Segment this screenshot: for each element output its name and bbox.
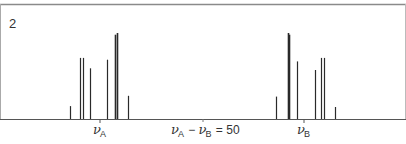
diff-nu-a-subscript: A — [178, 129, 184, 139]
diff-nu-b-subscript: B — [206, 129, 212, 139]
panel-label: 2 — [9, 16, 16, 31]
diff-minus: − — [185, 123, 199, 137]
nu-a-subscript: A — [100, 129, 106, 139]
difference-annotation: νA − νB = 50 — [171, 122, 240, 137]
nu-b-label: νB — [297, 122, 311, 137]
spectral-lines — [71, 33, 336, 119]
nu-b-subscript: B — [304, 129, 310, 139]
nu-a-label: νA — [93, 122, 107, 137]
diff-equals: = 50 — [213, 123, 240, 137]
